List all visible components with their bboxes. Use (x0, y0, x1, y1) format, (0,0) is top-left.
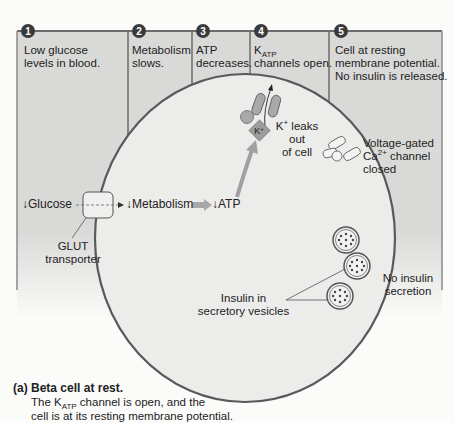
insulin-vesicles-label: Insulin in secretory vesicles (196, 292, 291, 318)
glut-transporter-label: GLUT transporter (38, 240, 108, 266)
step-2-text: Metabolism slows. (132, 44, 191, 70)
caption-title: Beta cell at rest. (31, 381, 123, 395)
step-1-text: Low glucose levels in blood. (24, 44, 100, 70)
metabolism-label: ↓Metabolism (126, 198, 193, 211)
step-3-text: ATP decreases. (196, 44, 252, 70)
vesicle-2 (344, 253, 370, 279)
svg-text:3: 3 (200, 26, 206, 37)
svg-text:5: 5 (338, 26, 344, 37)
figure-caption: (a) Beta cell at rest. The KATP channel … (13, 381, 233, 423)
svg-text:4: 4 (258, 26, 264, 37)
ca-channel-label: Voltage-gated Ca2+ channel closed (363, 137, 434, 176)
caption-body: The KATP channel is open, and the cell i… (31, 395, 233, 423)
svg-text:1: 1 (25, 26, 31, 37)
no-insulin-secretion-label: No insulin secretion (378, 272, 438, 298)
atp-label: ↓ATP (212, 198, 240, 211)
vesicle-1 (333, 227, 359, 253)
svg-text:2: 2 (136, 26, 142, 37)
vesicle-3 (327, 283, 353, 309)
k-leaks-label: K+ leaks out of cell (272, 120, 322, 159)
step-5-text: Cell at resting membrane potential. No i… (335, 44, 448, 83)
caption-prefix: (a) (13, 381, 28, 395)
step-4-text: KATP channels open. (254, 44, 332, 70)
glucose-label: ↓Glucose (22, 198, 72, 211)
